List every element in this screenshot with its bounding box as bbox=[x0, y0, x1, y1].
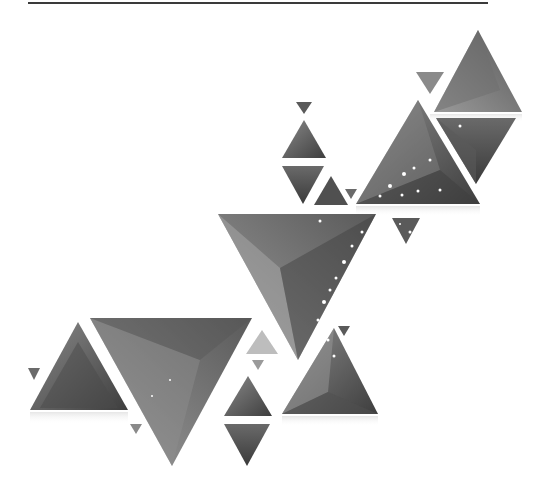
triangle-tiny-down-bottom bbox=[130, 424, 142, 434]
triangle-small-up-center bbox=[314, 176, 348, 205]
triangle-small-down-left bbox=[282, 166, 324, 204]
triangle-small-down-top bbox=[416, 72, 444, 94]
triangle-top-right bbox=[434, 30, 522, 112]
triangle-small-up-lower bbox=[224, 376, 272, 416]
triangle-small-up-edge bbox=[246, 330, 278, 354]
triangle-tiny-down-center bbox=[345, 189, 357, 199]
triangle-small-down-lower bbox=[224, 424, 270, 466]
triangle-illustration bbox=[0, 0, 555, 496]
triangle-tiny-down-right bbox=[338, 326, 350, 336]
triangle-tiny-down-edge bbox=[252, 360, 264, 370]
triangle-tiny-down-mid bbox=[392, 218, 420, 244]
triangle-tiny-down-left bbox=[296, 102, 312, 114]
triangle-small-up-left bbox=[282, 120, 326, 158]
triangle-center-down bbox=[218, 214, 376, 360]
triangle-tiny-down-far-left bbox=[28, 368, 40, 380]
